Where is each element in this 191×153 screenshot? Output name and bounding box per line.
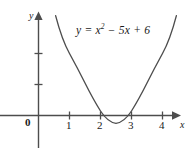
y-axis-label: y (29, 11, 33, 21)
x-axis-label: x (180, 120, 184, 130)
equation-exponent: 2 (101, 22, 105, 31)
x-tick-label-4: 4 (159, 120, 165, 131)
x-tick-label-3: 3 (128, 120, 134, 131)
y-axis-arrowhead (34, 12, 42, 21)
equation-rest: − 5x + 6 (108, 24, 150, 36)
equation-equals: = (84, 24, 92, 36)
equation-lhs: y (76, 24, 81, 36)
x-tick-label-1: 1 (66, 120, 72, 131)
x-tick-label-2: 2 (97, 120, 103, 131)
equation-annotation: y = x2 − 5x + 6 (76, 25, 150, 37)
parabola-figure: 0 1 2 3 4 y x y = x2 − 5x + 6 (0, 0, 191, 153)
origin-label: 0 (25, 117, 31, 128)
